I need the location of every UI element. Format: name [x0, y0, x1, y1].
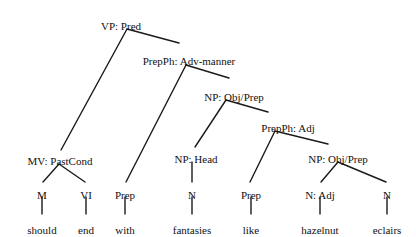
edge-vp-to-mv: [61, 29, 127, 150]
edge-adj-to-prep2: [250, 131, 275, 182]
tree-node-np_objprep_1: NP: Obj/Prep: [204, 92, 264, 103]
tree-leaf-word_fantasies: fantasies: [173, 225, 211, 236]
tree-edges-layer: [0, 0, 416, 237]
tree-node-pos_prep_1: Prep: [115, 190, 135, 201]
edge-np2-to-nadj: [321, 162, 338, 182]
tree-node-pos_prep_2: Prep: [241, 190, 261, 201]
edge-np1-to-nphead: [195, 100, 226, 147]
tree-leaf-word_hazelnut: hazelnut: [301, 225, 338, 236]
tree-node-np_objprep_2: NP: Obj/Prep: [308, 154, 368, 165]
tree-node-pos_n_adj: N: Adj: [305, 190, 335, 201]
tree-node-pos_n_1: N: [188, 190, 196, 201]
tree-node-pos_n_2: N: [383, 190, 391, 201]
tree-node-pos_m: M: [37, 190, 47, 201]
tree-leaf-word_eclairs: eclairs: [373, 225, 402, 236]
tree-leaf-word_end: end: [78, 225, 94, 236]
tree-node-prepph_advm: PrepPh: Adv-manner: [143, 56, 236, 67]
tree-node-vp_pred: VP: Pred: [101, 21, 141, 32]
tree-node-np_head: NP: Head: [174, 154, 217, 165]
tree-node-pos_vi: VI: [80, 190, 92, 201]
syntax-tree-diagram: VP: PredPrepPh: Adv-mannerNP: Obj/PrepPr…: [0, 0, 416, 237]
tree-leaf-word_should: should: [27, 225, 56, 236]
tree-leaf-word_like: like: [243, 225, 260, 236]
tree-node-prepph_adj: PrepPh: Adj: [261, 123, 314, 134]
tree-leaf-word_with: with: [115, 225, 135, 236]
edge-np2-to-n2: [338, 162, 386, 182]
tree-node-mv_pastcond: MV: PastCond: [28, 156, 93, 167]
